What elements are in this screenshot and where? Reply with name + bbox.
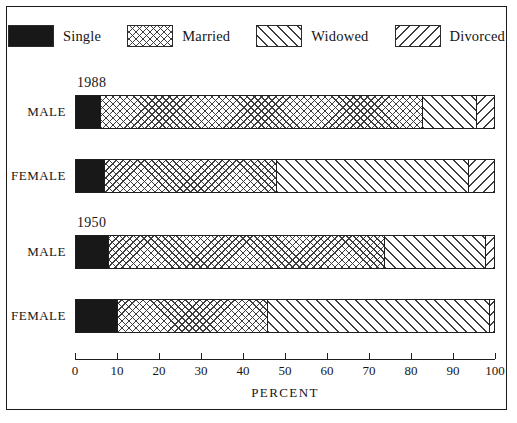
x-axis-tick (327, 353, 328, 359)
bar-segment-married (105, 160, 276, 192)
x-axis-tick-label: 20 (153, 363, 166, 379)
stacked-bar (75, 235, 495, 269)
x-axis: PERCENT 0102030405060708090100 (75, 359, 495, 360)
group-year-label: 1988 (77, 75, 106, 91)
x-axis-tick-label: 70 (363, 363, 376, 379)
stacked-bar (75, 299, 495, 333)
x-axis-tick (285, 353, 286, 359)
bar-row: MALE (75, 235, 495, 269)
bar-row-label: FEMALE (11, 168, 66, 184)
x-axis-tick (201, 353, 202, 359)
x-axis-tick (453, 353, 454, 359)
x-axis-line (75, 359, 495, 360)
x-axis-tick (159, 353, 160, 359)
bar-segment-single (76, 96, 101, 128)
bar-segment-single (76, 236, 109, 268)
x-axis-tick (117, 353, 118, 359)
bar-row: FEMALE (75, 299, 495, 333)
x-axis-tick-label: 100 (485, 363, 505, 379)
bar-segment-married (101, 96, 423, 128)
x-axis-tick-label: 80 (405, 363, 418, 379)
bar-segment-widowed (277, 160, 469, 192)
bar-segment-married (118, 300, 268, 332)
bar-segment-divorced (490, 300, 494, 332)
x-axis-tick (369, 353, 370, 359)
stacked-bar (75, 159, 495, 193)
x-axis-tick-label: 60 (321, 363, 334, 379)
plot-area: 1988MALEFEMALE1950MALEFEMALE (7, 7, 506, 409)
bar-row-label: FEMALE (11, 308, 66, 324)
x-axis-tick-label: 50 (279, 363, 292, 379)
bar-segment-divorced (469, 160, 494, 192)
bar-segment-divorced (486, 236, 494, 268)
bar-segment-widowed (423, 96, 477, 128)
bar-row: MALE (75, 95, 495, 129)
caption-bleed (8, 413, 509, 423)
x-axis-tick (75, 353, 76, 359)
bar-segment-single (76, 300, 118, 332)
x-axis-tick-label: 10 (111, 363, 124, 379)
bar-row-label: MALE (27, 104, 66, 120)
bar-segment-divorced (477, 96, 494, 128)
x-axis-tick (495, 353, 496, 359)
figure-frame: SingleMarriedWidowedDivorced 1988MALEFEM… (6, 6, 507, 410)
x-axis-title: PERCENT (75, 385, 495, 401)
x-axis-tick-label: 90 (447, 363, 460, 379)
bar-segment-married (109, 236, 385, 268)
bar-segment-widowed (385, 236, 485, 268)
bar-row-label: MALE (27, 244, 66, 260)
x-axis-tick (411, 353, 412, 359)
stacked-bar (75, 95, 495, 129)
bar-segment-widowed (268, 300, 490, 332)
x-axis-tick (243, 353, 244, 359)
bar-row: FEMALE (75, 159, 495, 193)
bar-segment-single (76, 160, 105, 192)
x-axis-tick-label: 30 (195, 363, 208, 379)
group-year-label: 1950 (77, 215, 106, 231)
x-axis-tick-label: 40 (237, 363, 250, 379)
x-axis-tick-label: 0 (72, 363, 79, 379)
